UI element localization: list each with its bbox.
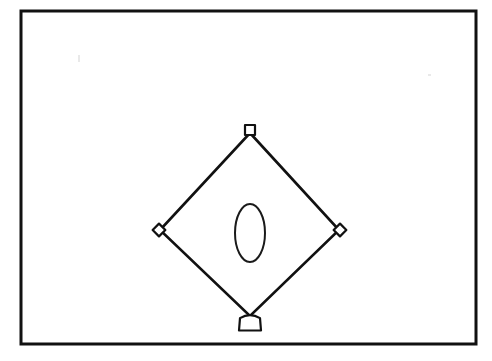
paper-smudge (78, 55, 80, 62)
drawing-canvas: Baseball Diamond Line Drawing Line drawi… (0, 0, 492, 361)
paper-speck (428, 74, 431, 76)
home-plate-marker (239, 315, 261, 330)
baseball-diamond-figure: Baseball Diamond Line Drawing (0, 0, 492, 361)
pitchers-mound-icon (235, 204, 265, 262)
paper-background (0, 0, 492, 361)
second-base-marker (245, 125, 255, 135)
